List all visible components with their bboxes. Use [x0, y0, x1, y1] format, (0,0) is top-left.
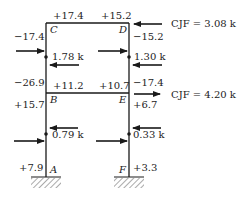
right-upper-shear-label: 1.30 k: [134, 51, 166, 62]
left-upper-inflection-point: [44, 55, 48, 59]
left-column-top-moment: −17.4: [14, 31, 45, 42]
left-column-base-moment: +7.9: [19, 162, 43, 173]
top-beam-right-moment: +15.2: [101, 10, 132, 21]
node-label-f: F: [118, 164, 127, 175]
top-beam-left-moment: +17.4: [53, 10, 84, 21]
left-column-lower-top-moment: +15.7: [14, 99, 45, 110]
top-load-label: CJF = 3.08 k: [171, 18, 237, 29]
right-column-top-moment: −15.2: [133, 31, 164, 42]
frame-members: [46, 23, 129, 177]
frame-diagram: C D B E A F +17.4 +15.2 +11.2 +10.7 −17.…: [0, 0, 244, 198]
left-upper-shear-label: 1.78 k: [52, 51, 84, 62]
ground-hatch-icon: [31, 178, 61, 188]
right-upper-inflection-point: [127, 55, 131, 59]
node-label-e: E: [118, 94, 127, 105]
right-lower-inflection-point: [127, 132, 131, 136]
node-label-d: D: [118, 24, 127, 35]
right-column-lower-top-moment: +6.7: [133, 99, 157, 110]
middle-load-label: CJF = 4.20 k: [171, 89, 237, 100]
right-column-base-moment: +3.3: [133, 162, 157, 173]
left-lower-shear-label: 0.79 k: [52, 129, 84, 140]
left-column-upper-bottom-moment: −26.9: [14, 77, 45, 88]
right-support: [114, 177, 144, 188]
node-label-b: B: [49, 94, 57, 105]
left-support: [31, 177, 61, 188]
middle-beam-left-moment: +11.2: [53, 80, 84, 91]
right-column-upper-bottom-moment: −17.4: [133, 77, 164, 88]
right-lower-shear-label: 0.33 k: [133, 129, 165, 140]
middle-beam-right-moment: +10.7: [99, 80, 130, 91]
node-label-a: A: [49, 164, 57, 175]
ground-hatch-icon: [114, 178, 144, 188]
node-label-c: C: [50, 24, 58, 35]
left-lower-inflection-point: [44, 132, 48, 136]
